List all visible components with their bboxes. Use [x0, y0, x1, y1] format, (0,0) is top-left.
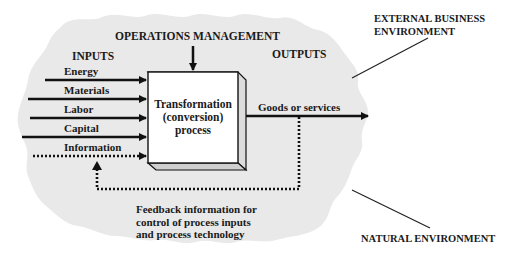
process-line-1: Transformation: [147, 98, 239, 111]
inputs-heading: INPUTS: [72, 51, 114, 63]
external-env-line-1: EXTERNAL BUSINESS: [374, 13, 485, 26]
input-label-capital: Capital: [64, 123, 99, 134]
external-env-line-2: ENVIRONMENT: [374, 26, 485, 39]
external-environment-pointer: [352, 38, 428, 78]
output-label-goods-services: Goods or services: [258, 102, 340, 113]
operations-management-label: OPERATIONS MANAGEMENT: [115, 31, 280, 43]
transformation-process-label: Transformation (conversion) process: [147, 98, 239, 137]
outputs-heading: OUTPUTS: [272, 49, 326, 61]
process-line-2: (conversion): [147, 111, 239, 124]
process-line-3: process: [147, 124, 239, 137]
natural-environment-pointer: [352, 190, 430, 228]
feedback-line-2: control of process inputs: [136, 216, 257, 229]
feedback-line-1: Feedback information for: [136, 203, 257, 216]
feedback-label: Feedback information for control of proc…: [136, 203, 257, 241]
input-label-labor: Labor: [64, 104, 93, 115]
external-business-environment-label: EXTERNAL BUSINESS ENVIRONMENT: [374, 13, 485, 38]
feedback-line-3: and process technology: [136, 228, 257, 241]
input-label-energy: Energy: [64, 66, 98, 77]
natural-environment-label: NATURAL ENVIRONMENT: [361, 233, 495, 246]
input-label-materials: Materials: [64, 85, 109, 96]
input-label-information: Information: [64, 142, 121, 153]
